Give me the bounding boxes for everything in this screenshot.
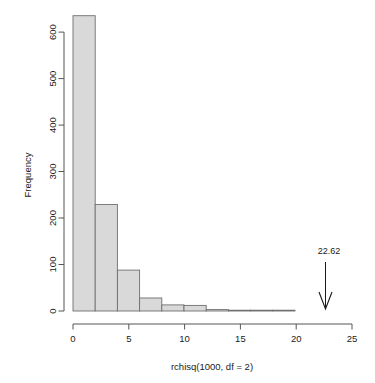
y-tick-label-0: 0: [47, 308, 58, 313]
histogram-bar: [228, 310, 250, 311]
y-tick-label-600: 600: [47, 24, 58, 40]
y-tick-label-100: 100: [47, 257, 58, 273]
histogram-bar: [251, 310, 273, 311]
histogram-bar: [273, 310, 295, 311]
y-tick-label-400: 400: [47, 117, 58, 133]
y-tick-label-200: 200: [47, 210, 58, 226]
x-tick-label-25: 25: [347, 333, 358, 344]
histogram-bar: [206, 310, 228, 311]
histogram-bar: [117, 270, 139, 311]
x-axis-title: rchisq(1000, df = 2): [171, 361, 253, 372]
x-tick-label-15: 15: [235, 333, 246, 344]
x-tick-label-0: 0: [70, 333, 75, 344]
x-tick-label-20: 20: [291, 333, 302, 344]
y-axis: 600 500 400 300 200 100 0 Frequency: [22, 24, 64, 313]
x-tick-label-10: 10: [179, 333, 190, 344]
histogram-bar: [140, 298, 162, 311]
histogram-bar: [73, 16, 95, 311]
histogram-bar: [162, 305, 184, 311]
bars-group: [73, 16, 295, 311]
annotation-value-label: 22.62: [318, 246, 341, 256]
histogram-chart: 600 500 400 300 200 100 0 Frequency 0 5 …: [0, 0, 375, 383]
y-axis-title: Frequency: [22, 152, 33, 197]
annotation-arrow-22-62: 22.62: [318, 246, 341, 309]
y-tick-label-500: 500: [47, 71, 58, 87]
x-tick-label-5: 5: [126, 333, 131, 344]
x-axis: 0 5 10 15 20 25 rchisq(1000, df = 2): [70, 324, 357, 372]
y-tick-label-300: 300: [47, 164, 58, 180]
histogram-bar: [95, 205, 117, 312]
histogram-bar: [184, 305, 206, 311]
